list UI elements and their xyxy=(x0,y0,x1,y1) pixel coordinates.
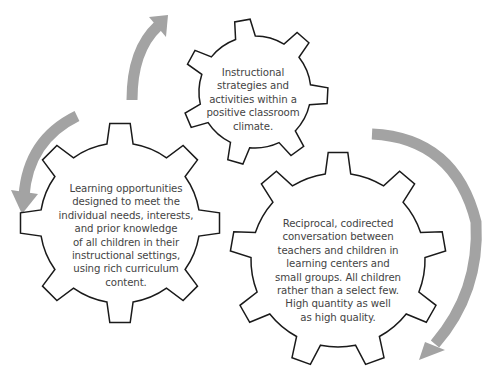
gear-left-text: Learning opportunities designed to meet … xyxy=(40,182,212,289)
gear-top-text: Instructional strategies and activities … xyxy=(185,66,321,133)
gear-right-text: Reciprocal, codirected conversation betw… xyxy=(250,217,426,324)
arrow-top-left-icon xyxy=(132,26,158,100)
